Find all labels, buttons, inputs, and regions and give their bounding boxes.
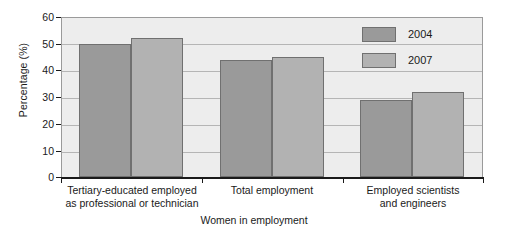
y-tick-label-10: 10	[6, 146, 54, 157]
y-tick-label-50: 50	[6, 39, 54, 50]
x-tick-mark-right	[483, 178, 484, 183]
legend-item-2007: 2007	[362, 49, 474, 71]
bar-chart-figure: Percentage (%) 60 50 40 30 20 10 0	[0, 0, 508, 231]
legend-swatch-2004-icon	[362, 27, 396, 42]
plot-area: 2004 2007	[61, 17, 483, 178]
x-axis-line	[61, 177, 484, 179]
legend-label-2007: 2007	[408, 54, 432, 66]
y-tick-label-30: 30	[6, 92, 54, 103]
legend-label-2004: 2004	[408, 28, 432, 40]
y-tick-label-60: 60	[6, 12, 54, 23]
x-group-label-scientists-engineers: Employed scientists and engineers	[337, 184, 489, 210]
x-axis-title: Women in employment	[0, 214, 508, 226]
bar-scientists-engineers-2004	[360, 100, 412, 177]
y-tick-label-40: 40	[6, 65, 54, 76]
bar-scientists-engineers-2007	[412, 92, 464, 177]
y-axis-tick-group: 60 50 40 30 20 10 0	[0, 0, 54, 231]
y-tick-label-20: 20	[6, 119, 54, 130]
x-group-label-tertiary-educated: Tertiary-educated employed as profession…	[56, 184, 208, 210]
legend-item-2004: 2004	[362, 23, 474, 45]
legend: 2004 2007	[362, 23, 474, 75]
x-group-label-total-employment: Total employment	[196, 184, 348, 197]
x-tick-mark-left	[61, 178, 62, 183]
bar-total-employment-2004	[220, 60, 272, 177]
x-tick-mark-1	[202, 178, 203, 183]
x-tick-mark-2	[343, 178, 344, 183]
bar-tertiary-educated-2007	[131, 38, 183, 177]
y-tick-label-0: 0	[6, 172, 54, 183]
bar-tertiary-educated-2004	[79, 44, 131, 177]
legend-swatch-2007-icon	[362, 53, 396, 68]
bar-total-employment-2007	[272, 57, 324, 177]
